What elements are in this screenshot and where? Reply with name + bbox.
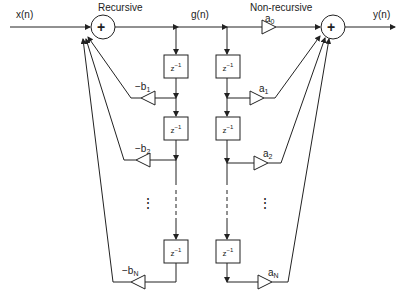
- gain-label-minus-bN: −bN: [122, 266, 138, 277]
- delay-label: z−1: [164, 124, 188, 135]
- delay-label: z−1: [216, 124, 240, 135]
- nonrecursive-section-label: Non-recursive: [250, 3, 312, 13]
- delay-label: z−1: [164, 247, 188, 258]
- ellipsis-right: ⋮: [258, 196, 272, 210]
- gain-label-a0: a0: [265, 14, 274, 25]
- gain-label-minus-b1: −b1: [135, 82, 150, 93]
- delay-label: z−1: [164, 62, 188, 73]
- gain-label-a1: a1: [259, 84, 268, 95]
- output-label: y(n): [373, 10, 390, 20]
- intermediate-label: g(n): [191, 10, 209, 20]
- diagram-canvas: [0, 0, 403, 297]
- recursive-section-label: Recursive: [98, 3, 142, 13]
- ellipsis-left: ⋮: [141, 196, 155, 210]
- gain-minus-b1: [141, 91, 155, 105]
- recursive-adder-symbol: +: [97, 20, 105, 34]
- gain-label-a2: a2: [263, 149, 272, 160]
- gain-label-aN: aN: [268, 268, 279, 279]
- input-label: x(n): [16, 10, 33, 20]
- delay-label: z−1: [216, 62, 240, 73]
- output-adder-symbol: +: [327, 20, 335, 34]
- delay-label: z−1: [216, 247, 240, 258]
- gain-label-minus-b2: −b2: [135, 144, 150, 155]
- gain-minus-b2: [136, 153, 150, 167]
- gain-minus-bN: [131, 275, 145, 289]
